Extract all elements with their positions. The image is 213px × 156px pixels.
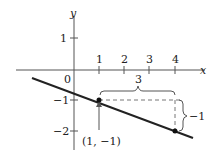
point-label: (1, −1) [82, 135, 121, 148]
y-tick-1: 1 [60, 32, 67, 45]
rise-label: −1 [189, 110, 205, 123]
slope-diagram: x y 0 1 2 3 4 1 −1 −2 3 −1 (1, −1) [0, 0, 213, 156]
x-axis-label: x [200, 64, 207, 77]
y-tick-neg2: −2 [53, 125, 69, 138]
x-tick-1: 1 [96, 53, 103, 66]
rise-brace [179, 100, 187, 131]
y-tick-neg1: −1 [53, 94, 69, 107]
origin-label: 0 [64, 73, 71, 86]
x-tick-3: 3 [146, 53, 153, 66]
run-brace [100, 86, 175, 95]
x-tick-2: 2 [121, 53, 128, 66]
y-axis-label: y [69, 7, 77, 20]
x-tick-4: 4 [172, 53, 179, 66]
point-4-neg2 [173, 129, 178, 134]
point-1-neg1 [97, 98, 102, 103]
run-label: 3 [135, 73, 142, 86]
